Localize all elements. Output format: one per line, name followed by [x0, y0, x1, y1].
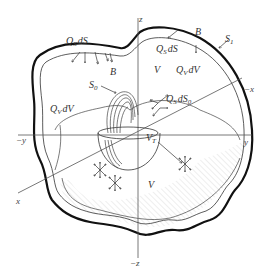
- neg-y-axis-label: −y: [16, 135, 26, 145]
- b-label-right: B: [195, 26, 201, 37]
- z-axis-label: z: [138, 14, 143, 24]
- surface-flux-arrows-top: [72, 52, 112, 64]
- neg-x-axis-label: −x: [244, 84, 254, 94]
- body-s0: [98, 92, 160, 170]
- volume-source-cluster-3: [179, 156, 191, 172]
- vt-label: VT: [146, 132, 157, 145]
- qs-ds-label-top-left: QSdS: [66, 35, 88, 48]
- neg-z-axis-label: −z: [130, 258, 140, 268]
- control-volume-diagram: z −z y −y x −x QSdS B QSdS B S1 S0 V QVd…: [0, 0, 264, 275]
- s1-label: S1: [225, 33, 234, 46]
- qv-dv-label-right: QVdV: [176, 64, 202, 77]
- qs-ds0-label: QSdS0: [166, 93, 192, 106]
- s0-pointer-arrow: [101, 86, 116, 93]
- s0-label: S0: [89, 79, 98, 92]
- v-label-bottom: V: [148, 179, 156, 190]
- qs-ds-label-top-right: QSdS: [156, 43, 178, 56]
- volume-source-cluster-1: [94, 162, 106, 178]
- x-axis-label: x: [15, 196, 20, 206]
- b-label-left: B: [110, 66, 116, 77]
- y-axis-label: y: [243, 137, 248, 147]
- vt-arrow: [158, 142, 182, 163]
- middle-contour: [55, 125, 61, 170]
- v-label-top: V: [154, 64, 162, 75]
- volume-source-cluster-2: [109, 175, 121, 191]
- qv-dv-label-left: QVdV: [50, 103, 76, 116]
